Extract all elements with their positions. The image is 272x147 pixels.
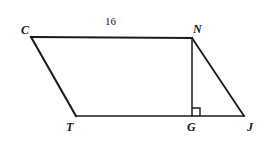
vertex-label-J: J	[247, 121, 253, 133]
segment-CN	[31, 37, 192, 38]
vertex-label-G: G	[187, 121, 196, 133]
figure-canvas	[0, 0, 272, 147]
geometry-figure: C N T G J 16	[0, 0, 272, 147]
vertex-label-T: T	[66, 121, 73, 133]
segment-NJ	[192, 38, 244, 116]
side-length-label-CN: 16	[105, 16, 116, 27]
vertex-label-C: C	[21, 24, 29, 36]
segment-CT	[31, 37, 76, 116]
right-angle-marker-G	[192, 108, 200, 116]
vertex-label-N: N	[193, 23, 202, 35]
